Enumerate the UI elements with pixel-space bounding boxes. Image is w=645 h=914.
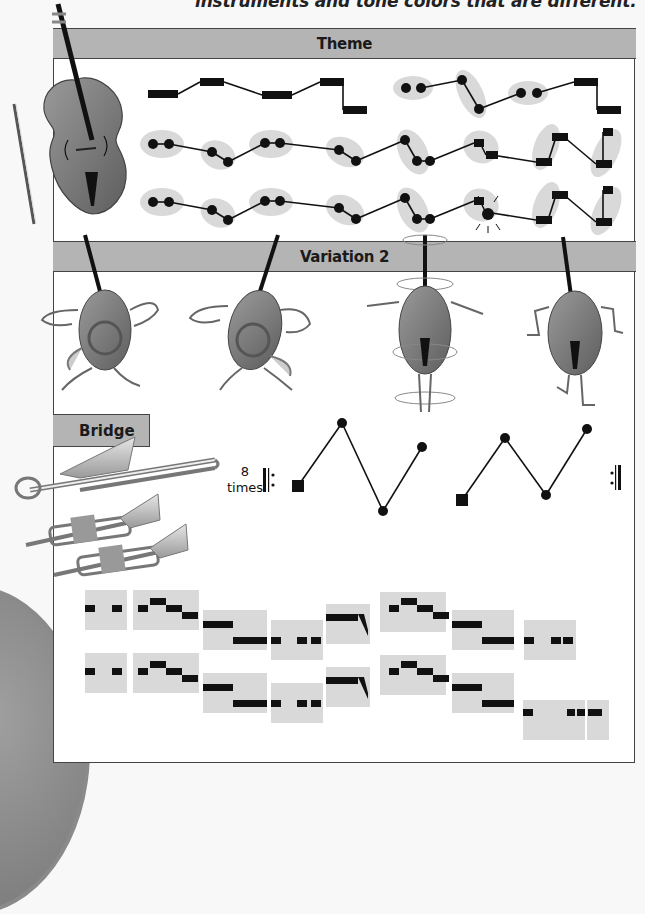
note-bar [271,700,281,707]
note-bar [588,709,602,716]
note-bar [311,637,321,644]
theme-row-2 [140,120,628,181]
note-bar [271,637,281,644]
repeat-start-sign [263,468,275,492]
theme-row-1 [148,65,621,122]
note-bar [182,612,198,619]
note-dot [334,145,344,155]
note-bar [567,709,575,716]
note-dot [500,433,510,443]
note-bar [166,668,182,675]
note-dot [482,208,494,220]
melody-line [476,224,480,230]
note-bar [233,637,267,644]
note-dot [457,75,467,85]
phrase-group [390,124,436,179]
note-bar [389,668,399,675]
note-dot [337,418,347,428]
note-bar [200,78,224,86]
repeat-end-sign [610,465,621,490]
note-bar [596,218,612,226]
spinning-cello-illustration [367,235,483,412]
note-dot [582,424,592,434]
walking-cello-illustration [527,237,623,405]
note-dot [416,83,426,93]
note-bar [389,605,399,612]
cello-with-french-horn-dancing-1-illustration [42,235,158,390]
note-bar [474,139,484,147]
note-bar [577,709,585,716]
note-bar [482,700,514,707]
note-bar [417,605,433,612]
note-dot [148,139,158,149]
note-bar [524,637,534,644]
note-dot [164,139,174,149]
note-bar [85,668,95,675]
note-dot [412,214,422,224]
note-bar [138,605,148,612]
cello-with-french-horn-dancing-2-illustration [190,235,310,390]
note-bar [596,160,612,168]
note-bar [433,612,449,619]
note-bar [536,216,552,224]
note-bar [203,684,233,691]
note-bar [452,684,482,691]
note-dot [351,156,361,166]
melody-line [462,438,505,500]
note-bar [536,158,552,166]
melody-line [492,213,536,220]
note-bar [148,90,178,98]
melody-line [492,155,536,162]
note-dot [164,197,174,207]
note-bar [597,106,621,114]
note-dot [417,442,427,452]
melody-line [383,447,422,511]
note-bar [150,661,166,668]
bridge-melody-contour [292,418,592,516]
note-bar [523,709,533,716]
melody-line [505,438,546,495]
note-bar [138,668,148,675]
melody-line [564,195,596,222]
note-dot [207,205,217,215]
phrase-group [321,131,369,173]
melody-line [356,198,405,219]
note-bar [417,668,433,675]
note-bar [552,133,568,141]
melody-line [178,82,200,94]
note-bar [320,78,344,86]
note-dot [223,157,233,167]
note-bar [150,598,166,605]
note-bar [401,598,417,605]
note-bar [603,186,613,194]
note-dot [541,490,551,500]
note-dot [275,138,285,148]
note-bar [326,614,358,621]
melody-line [356,140,405,161]
note-square [456,494,468,506]
melody-line [564,137,596,164]
note-bar [182,675,198,682]
rhythm-box [523,700,585,740]
melody-line [496,224,500,230]
note-dot [207,147,217,157]
note-dot [351,214,361,224]
note-dot [260,138,270,148]
note-bar [603,128,613,136]
note-bar [85,605,95,612]
note-dot [516,88,526,98]
note-dot [400,193,410,203]
phrase-group [321,189,369,231]
note-square [292,480,304,492]
note-bar [112,668,122,675]
phrase-group [393,76,433,100]
note-bar [401,661,417,668]
note-dot [412,156,422,166]
note-bar [203,621,233,628]
trumpet-1-illustration [26,494,160,545]
note-bar [551,637,561,644]
melody-line [224,82,262,95]
note-bar [433,675,449,682]
note-bar [326,677,358,684]
